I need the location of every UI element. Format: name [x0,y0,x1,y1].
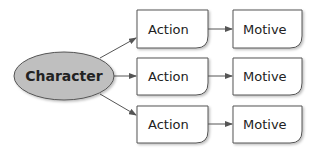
motive-label-2: Motive [243,69,287,84]
motive-label-1: Motive [243,22,287,37]
action-label-2: Action [148,69,189,84]
character-action-motive-diagram: Character Action Motive Action Motive Ac… [0,0,321,157]
motive-label-3: Motive [243,117,287,132]
action-node-1: Action [137,10,208,48]
motive-node-3: Motive [233,106,302,143]
action-node-3: Action [137,106,208,143]
motive-node-1: Motive [233,10,302,48]
motive-node-2: Motive [233,58,302,95]
action-node-2: Action [137,58,208,95]
arrow-character-to-action-3 [100,94,136,115]
action-label-1: Action [148,22,189,37]
action-label-3: Action [148,117,189,132]
character-label: Character [25,68,103,84]
character-node: Character [14,52,114,100]
arrow-character-to-action-1 [100,38,136,58]
